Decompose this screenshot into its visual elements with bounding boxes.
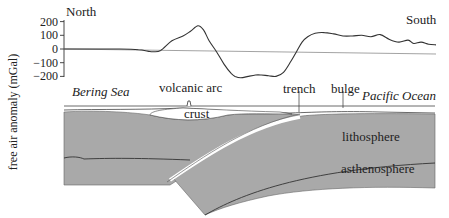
bulge-label: bulge: [331, 81, 360, 96]
y-tick-label: −100: [33, 56, 58, 70]
y-tick-label: −200: [33, 69, 58, 83]
south-label: South: [406, 12, 437, 27]
zero-line: [64, 49, 436, 54]
y-tick-label: 0: [52, 42, 58, 56]
asthenosphere-label: asthenosphere: [341, 161, 415, 176]
north-label: North: [66, 4, 97, 19]
volcanic-arc-label: volcanic arc: [159, 80, 222, 95]
bering-sea-label: Bering Sea: [72, 84, 130, 99]
trench-label: trench: [283, 81, 316, 96]
crust-label: crust: [184, 106, 210, 121]
y-axis-label: free air anomaly (mGal): [6, 54, 20, 170]
subduction-diagram: free air anomaly (mGal) 2001000−100−200 …: [0, 0, 449, 218]
y-tick-label: 100: [40, 28, 58, 42]
lithosphere-label: lithosphere: [342, 129, 400, 144]
cross-section: Bering Sea volcanic arc crust trench bul…: [64, 80, 436, 215]
y-tick-label: 200: [40, 15, 58, 29]
pacific-ocean-label: Pacific Ocean: [361, 88, 436, 103]
y-ticks: 2001000−100−200: [33, 15, 64, 84]
